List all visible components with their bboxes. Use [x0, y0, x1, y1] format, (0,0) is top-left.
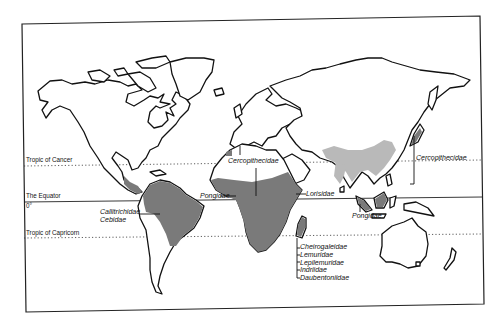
australia [380, 218, 428, 268]
north-america [38, 80, 190, 194]
arctic-island-3 [136, 56, 170, 68]
label-pongidae-africa: Pongidae [200, 192, 230, 199]
label-tropic-of-cancer: Tropic of Cancer [26, 157, 72, 163]
label-tropic-of-capricorn: Tropic of Capricorn [26, 230, 79, 236]
label-lemuridae: Lemuridae [300, 251, 333, 258]
label-cebidae: Cebidae [100, 216, 126, 223]
label-lepilemuridae: Lepilemuridae [300, 259, 344, 266]
label-callitrichidae: Callitrichidae [100, 208, 140, 215]
iceland [214, 88, 224, 96]
arctic-island-1 [88, 70, 110, 82]
label-daubentoniidae: Daubentoniidae [300, 274, 349, 281]
world-map [0, 0, 504, 330]
new-guinea [404, 202, 434, 216]
sumatra-range [357, 197, 371, 211]
label-cercopithecidae-asia: Cercopithecidae [416, 154, 467, 161]
tasmania [416, 262, 420, 266]
label-cercopithecidae-africa: Cercopithecidae [228, 157, 279, 164]
label-pongidae-asia: Pongidae [352, 212, 382, 219]
label-equator: The Equator [26, 193, 61, 199]
label-lorisidae: Lorisidae [306, 190, 334, 197]
cuba [150, 170, 166, 176]
label-zero-degrees: 0° [26, 203, 32, 209]
sri-lanka [340, 186, 344, 192]
label-indriidae: Indriidae [300, 266, 327, 273]
central-america-range [124, 176, 142, 194]
african-primate-range [211, 172, 302, 252]
philippines [386, 174, 392, 186]
sulawesi [390, 196, 396, 208]
label-cheirogaleidae: Cheirogaleidae [300, 243, 347, 250]
new-zealand [444, 248, 456, 270]
arctic-island-2 [114, 68, 128, 76]
